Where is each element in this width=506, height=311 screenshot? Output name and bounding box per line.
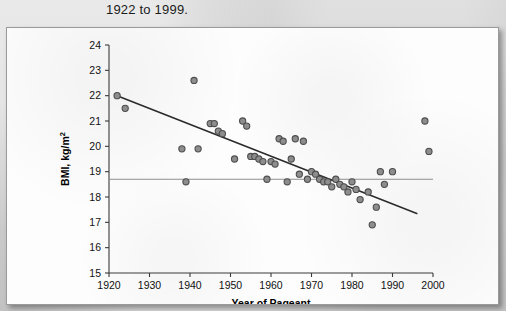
data-series-miss-america-bmi bbox=[114, 77, 432, 228]
data-point bbox=[284, 179, 290, 185]
data-point bbox=[377, 169, 383, 175]
data-point bbox=[304, 176, 310, 182]
y-tick-label: 24 bbox=[89, 39, 101, 51]
data-point bbox=[389, 169, 395, 175]
data-point bbox=[288, 156, 294, 162]
data-point bbox=[122, 105, 128, 111]
data-point bbox=[426, 148, 432, 154]
y-tick-label: 15 bbox=[89, 267, 101, 279]
x-axis-title: Year of Pageant bbox=[232, 297, 311, 304]
y-tick-label: 21 bbox=[89, 115, 101, 127]
data-point bbox=[191, 77, 197, 83]
y-tick-label: 23 bbox=[89, 64, 101, 76]
data-point bbox=[231, 156, 237, 162]
data-point bbox=[183, 179, 189, 185]
scatter-plot: 1516171819202122232419201930194019501960… bbox=[7, 28, 498, 304]
y-tick-label: 19 bbox=[89, 165, 101, 177]
y-tick-label: 22 bbox=[89, 89, 101, 101]
data-point bbox=[114, 93, 120, 99]
data-point bbox=[349, 179, 355, 185]
figure-caption: 1922 to 1999. bbox=[106, 2, 188, 17]
y-tick-label: 17 bbox=[89, 216, 101, 228]
x-tick-label: 1920 bbox=[97, 279, 121, 291]
data-point bbox=[280, 138, 286, 144]
data-point bbox=[264, 176, 270, 182]
data-point bbox=[219, 131, 225, 137]
data-point bbox=[357, 196, 363, 202]
data-point bbox=[365, 189, 371, 195]
data-point bbox=[422, 118, 428, 124]
data-point bbox=[292, 136, 298, 142]
data-point bbox=[260, 158, 266, 164]
data-point bbox=[179, 146, 185, 152]
x-tick-label: 1960 bbox=[259, 279, 283, 291]
y-tick-label: 20 bbox=[89, 140, 101, 152]
x-tick-label: 1930 bbox=[138, 279, 162, 291]
y-tick-label: 18 bbox=[89, 191, 101, 203]
x-tick-label: 1990 bbox=[381, 279, 405, 291]
data-point bbox=[381, 181, 387, 187]
data-point bbox=[369, 222, 375, 228]
x-tick-label: 1980 bbox=[340, 279, 364, 291]
regression-trend-line bbox=[117, 96, 417, 214]
data-point bbox=[373, 204, 379, 210]
data-point bbox=[329, 184, 335, 190]
x-tick-label: 2000 bbox=[421, 279, 445, 291]
y-axis-title: BMI, kg/m2 bbox=[58, 132, 71, 186]
chart-panel: 1516171819202122232419201930194019501960… bbox=[6, 27, 499, 305]
data-point bbox=[211, 120, 217, 126]
x-tick-label: 1940 bbox=[178, 279, 202, 291]
data-point bbox=[345, 189, 351, 195]
x-tick-label: 1970 bbox=[300, 279, 324, 291]
data-point bbox=[195, 146, 201, 152]
data-point bbox=[244, 123, 250, 129]
data-point bbox=[300, 138, 306, 144]
data-point bbox=[296, 171, 302, 177]
y-tick-label: 16 bbox=[89, 241, 101, 253]
x-tick-label: 1950 bbox=[219, 279, 243, 291]
data-point bbox=[272, 161, 278, 167]
data-point bbox=[353, 186, 359, 192]
